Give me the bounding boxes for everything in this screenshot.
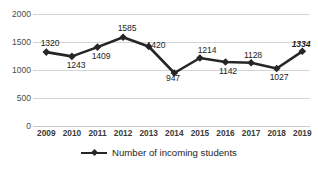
plot-area xyxy=(33,14,310,126)
legend-line-icon xyxy=(81,148,107,158)
x-axis-tick-2018: 2018 xyxy=(267,129,285,137)
data-label-2013: 1420 xyxy=(147,41,166,50)
gridline-2000 xyxy=(33,14,310,15)
chart-legend: Number of incoming students xyxy=(0,148,318,158)
data-label-2009: 1320 xyxy=(41,39,60,48)
data-label-2017: 1128 xyxy=(244,51,262,60)
x-axis-tick-2010: 2010 xyxy=(63,129,81,137)
x-axis-tick-2019: 2019 xyxy=(293,129,311,137)
data-label-2015: 1214 xyxy=(198,46,217,55)
diamond-marker-icon xyxy=(91,149,98,156)
x-axis-tick-2016: 2016 xyxy=(216,129,234,137)
data-label-2010: 1243 xyxy=(67,61,86,70)
x-axis-tick-2015: 2015 xyxy=(191,129,209,137)
x-axis-tick-2013: 2013 xyxy=(139,129,157,137)
data-label-2018: 1027 xyxy=(270,73,289,82)
data-label-2019: 1334 xyxy=(292,40,311,49)
line-chart: 2000 1500 1000 500 0 2009 2010 2011 2012… xyxy=(0,0,318,171)
y-axis-tick-1000: 1000 xyxy=(1,66,31,75)
x-axis-tick-2009: 2009 xyxy=(37,129,55,137)
x-axis-tick-2011: 2011 xyxy=(89,129,107,137)
legend-label-number-of-incoming-students: Number of incoming students xyxy=(112,148,237,158)
data-label-2014: 947 xyxy=(166,74,180,83)
y-axis-tick-2000: 2000 xyxy=(1,10,31,19)
data-label-2011: 1409 xyxy=(92,52,111,61)
y-axis-tick-500: 500 xyxy=(1,94,31,103)
x-axis-line xyxy=(33,126,310,127)
data-label-2016: 1142 xyxy=(219,67,237,76)
gridline-1500 xyxy=(33,42,310,43)
x-axis-tick-2017: 2017 xyxy=(242,129,260,137)
y-axis-tick-1500: 1500 xyxy=(1,38,31,47)
data-label-2012: 1585 xyxy=(118,24,137,33)
gridline-1000 xyxy=(33,70,310,71)
y-axis-tick-0: 0 xyxy=(1,122,31,131)
x-axis-tick-2012: 2012 xyxy=(114,129,132,137)
gridline-500 xyxy=(33,98,310,99)
x-axis-tick-2014: 2014 xyxy=(165,129,183,137)
